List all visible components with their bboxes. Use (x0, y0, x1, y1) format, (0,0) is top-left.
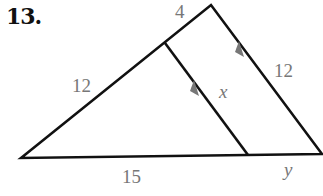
inner-parallel-segment (165, 43, 248, 155)
label-inner-segment: x (219, 82, 227, 101)
label-top-segment: 4 (175, 2, 185, 21)
label-left-side: 12 (72, 76, 91, 95)
label-right-side: 12 (274, 61, 293, 80)
label-base-right: y (284, 160, 292, 179)
outer-triangle (21, 5, 322, 158)
label-base-left: 15 (122, 167, 141, 186)
geometry-problem: 13. 4 12 12 x 15 y (0, 0, 323, 196)
triangle-diagram (0, 0, 323, 196)
